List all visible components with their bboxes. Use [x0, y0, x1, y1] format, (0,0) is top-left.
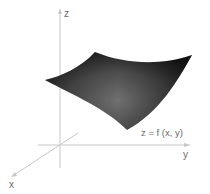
surface-equation-label: z = f (x, y) [141, 127, 183, 138]
z-axis-arrow-icon [58, 8, 62, 14]
surface-diagram: z y x z = f (x, y) [0, 0, 210, 194]
z-axis-label: z [64, 8, 69, 19]
x-axis [11, 133, 78, 177]
y-axis-arrow-icon [184, 143, 191, 147]
x-axis-arrow-icon [11, 172, 17, 177]
x-axis-label: x [9, 179, 14, 190]
y-axis-label: y [183, 149, 188, 160]
surface [45, 52, 192, 130]
